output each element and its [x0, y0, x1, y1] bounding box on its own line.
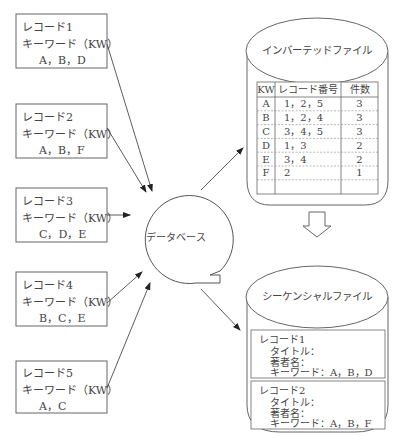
table-header-record-numbers: レコード番号 [278, 84, 338, 95]
record-title: レコード1 [22, 21, 73, 34]
record-title: レコード5 [22, 367, 73, 380]
diagram-canvas: レコード1 キーワード（KW） A，B，D レコード2 キーワード（KW） A，… [0, 0, 394, 437]
kw-cell: E [262, 154, 269, 165]
database-label: データベース [146, 231, 206, 243]
arrow-db-to-sequential [201, 289, 240, 330]
record-numbers-cell: 1，2，4 [284, 112, 323, 123]
count-cell: 3 [356, 98, 362, 109]
entry-title: レコード2 [259, 385, 305, 396]
entry-keyword-line: キーワード：A，B，D [270, 367, 373, 378]
record-keywords: B，C，E [39, 312, 86, 325]
down-arrow-icon [303, 212, 331, 237]
record-kw-label: キーワード（KW） [22, 128, 118, 141]
record-numbers-cell: 1，2，5 [284, 98, 323, 109]
record-kw-label: キーワード（KW） [22, 384, 118, 397]
record-keywords: A，B，D [38, 54, 86, 67]
record-title: レコード2 [22, 111, 73, 124]
record-box-3: レコード3 キーワード（KW） C，D，E [16, 188, 118, 242]
record-keywords: A，C [38, 400, 66, 413]
record-box-4: レコード4 キーワード（KW） B，C，E [16, 272, 118, 326]
kw-cell: C [262, 126, 270, 137]
record-numbers-cell: 2 [284, 167, 290, 178]
kw-cell: F [263, 167, 270, 178]
record-title: レコード3 [22, 195, 73, 208]
kw-cell: D [262, 140, 270, 151]
database-node: データベース [145, 196, 233, 284]
table-header-count: 件数 [350, 83, 370, 95]
record-kw-label: キーワード（KW） [22, 38, 118, 51]
arrow-record1-to-db [107, 44, 152, 191]
record-kw-label: キーワード（KW） [22, 296, 118, 309]
count-cell: 3 [356, 112, 362, 123]
record-numbers-cell: 3，4 [284, 154, 307, 165]
entry-title: レコード1 [259, 334, 305, 345]
record-box-5: レコード5 キーワード（KW） A，C [16, 361, 118, 413]
arrow-db-to-inverted [201, 148, 243, 190]
record-numbers-cell: 3，4，5 [284, 126, 323, 137]
kw-cell: A [261, 98, 270, 109]
entry-title-label: タイトル： [270, 397, 320, 408]
count-cell: 1 [356, 167, 362, 178]
record-box-2: レコード2 キーワード（KW） A，B，F [16, 104, 118, 158]
record-title: レコード4 [22, 279, 73, 292]
record-kw-label: キーワード（KW） [22, 212, 118, 225]
count-cell: 2 [356, 154, 362, 165]
sequential-file-title: シーケンシャルファイル [262, 290, 372, 302]
sequential-entry-2: レコード2 タイトル： 著者名： キーワード：A，B，F [251, 381, 385, 429]
kw-cell: B [262, 112, 269, 123]
count-cell: 3 [356, 126, 362, 137]
inverted-index-table: KW レコード番号 件数 A1，2，53B1，2，43C3，4，53D1，32E… [257, 82, 378, 194]
record-numbers-cell: 1，3 [284, 140, 307, 151]
entry-title-label: タイトル： [270, 346, 320, 357]
table-header-kw: KW [257, 84, 275, 95]
record-box-1: レコード1 キーワード（KW） A，B，D [16, 14, 118, 68]
arrow-record2-to-db [107, 128, 146, 192]
record-keywords: C，D，E [39, 228, 86, 241]
arrow-record4-to-db [107, 272, 142, 303]
inverted-file-title: インバーテッドファイル [262, 44, 372, 56]
sequential-entry-1: レコード1 タイトル： 著者名： キーワード：A，B，D [251, 330, 385, 378]
entry-keyword-line: キーワード：A，B，F [270, 418, 372, 429]
record-keywords: A，B，F [38, 144, 85, 157]
count-cell: 2 [356, 140, 362, 151]
